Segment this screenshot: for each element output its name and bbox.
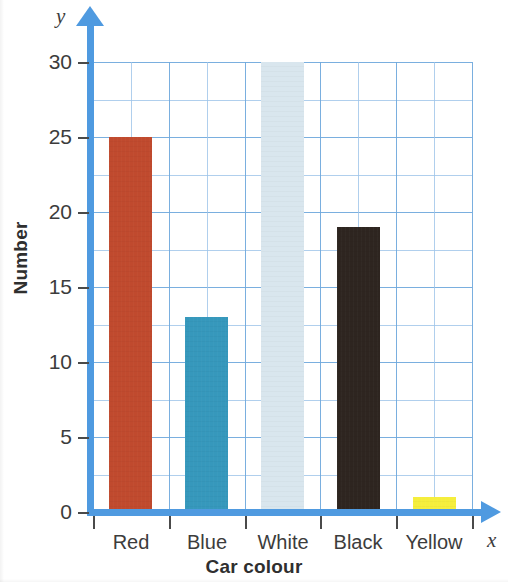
plot-area	[93, 62, 472, 512]
gridline-vertical	[396, 62, 397, 512]
y-axis-tick-label: 15	[22, 276, 72, 297]
y-axis-tick-label: 25	[22, 126, 72, 147]
x-axis-tick	[93, 516, 95, 529]
bar-texture	[261, 62, 304, 512]
bar-blue	[185, 317, 228, 512]
x-axis-tick	[169, 516, 171, 529]
gridline-vertical	[320, 62, 321, 512]
y-axis-tick	[78, 437, 89, 439]
gridline-vertical-minor	[434, 62, 435, 512]
x-axis-tick	[396, 516, 398, 529]
gridline-vertical	[245, 62, 246, 512]
x-axis-title: Car colour	[0, 556, 508, 578]
page-edge-shadow-left	[0, 0, 4, 582]
bar-texture	[337, 227, 380, 512]
y-axis-tick	[78, 137, 89, 139]
x-axis-tick	[472, 516, 474, 529]
y-axis-tick	[78, 62, 89, 64]
y-axis-tick	[78, 287, 89, 289]
bar-chart: y x Number Car colour 051015202530 RedBl…	[0, 0, 508, 582]
x-axis-letter: x	[487, 530, 496, 551]
y-axis-tick	[78, 212, 89, 214]
category-label-yellow: Yellow	[389, 531, 479, 553]
y-axis-tick-label: 10	[22, 351, 72, 372]
x-axis-tick	[245, 516, 247, 529]
y-axis-tick-label: 0	[22, 501, 72, 522]
y-axis-tick	[78, 362, 89, 364]
bar-black	[337, 227, 380, 512]
bar-texture	[185, 317, 228, 512]
bar-texture	[109, 137, 152, 512]
bar-white	[261, 62, 304, 512]
x-axis-tick	[320, 516, 322, 529]
gridline-vertical	[472, 62, 473, 512]
y-axis-tick	[78, 512, 89, 514]
x-axis-line	[87, 509, 485, 516]
y-axis-tick-label: 20	[22, 201, 72, 222]
y-axis-tick-label: 30	[22, 51, 72, 72]
y-axis-line	[87, 22, 94, 516]
bar-red	[109, 137, 152, 512]
y-axis-arrowhead	[76, 6, 104, 26]
y-axis-letter: y	[56, 6, 65, 27]
gridline-vertical	[169, 62, 170, 512]
y-axis-tick-label: 5	[22, 426, 72, 447]
x-axis-arrowhead	[481, 501, 501, 523]
